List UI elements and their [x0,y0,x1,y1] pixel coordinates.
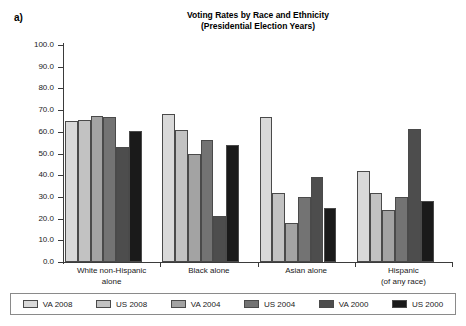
chart-legend: VA 2008US 2008VA 2004US 2004VA 2000US 20… [10,293,456,315]
legend-label: VA 2004 [191,300,221,309]
x-axis-label-line: White non-Hispanic [63,266,160,277]
y-axis-tick [58,219,63,220]
legend-item[interactable]: US 2000 [392,300,443,309]
legend-item[interactable]: US 2004 [244,300,295,309]
legend-label: VA 2008 [43,300,73,309]
bar [91,116,104,262]
legend-swatch [244,300,259,308]
y-axis-tick [58,262,63,263]
chart-title-line-1: Voting Rates by Race and Ethnicity [63,10,453,21]
bar [285,223,298,262]
legend-swatch [23,300,38,308]
y-axis-tick-label: 40.0 [10,171,54,179]
legend-swatch [96,300,111,308]
x-axis-label-line: Asian alone [258,266,355,277]
x-axis-label-line: (of any race) [355,277,452,288]
bar [324,208,337,262]
bar [201,140,214,262]
x-axis-category-label: Black alone [160,266,257,277]
x-axis-separator [452,262,453,267]
y-axis-tick-label: 90.0 [10,63,54,71]
y-axis-tick-label: 10.0 [10,236,54,244]
y-axis-tick [58,110,63,111]
y-axis-tick-label: 50.0 [10,150,54,158]
y-axis-tick-label: 70.0 [10,106,54,114]
y-axis-tick [58,67,63,68]
y-axis-tick-label: 0.0 [10,258,54,266]
legend-item[interactable]: VA 2004 [171,300,221,309]
bar [103,117,116,262]
y-axis-tick-label: 30.0 [10,193,54,201]
y-axis-tick [58,240,63,241]
y-axis-tick-label: 80.0 [10,84,54,92]
bar [421,201,434,262]
x-axis-category-label: Asian alone [258,266,355,277]
bar [65,121,78,262]
bar [129,131,142,262]
chart-title-line-2: (Presidential Election Years) [63,21,453,32]
bar [370,193,383,262]
x-axis-label-line: Hispanic [355,266,452,277]
bar [408,129,421,262]
legend-label: US 2008 [116,300,147,309]
bar [382,210,395,262]
chart-title: Voting Rates by Race and Ethnicity (Pres… [63,10,453,32]
x-axis-label-line: Black alone [160,266,257,277]
panel-label: a) [14,12,23,23]
x-axis-category-label: Hispanic(of any race) [355,266,452,287]
bar [162,114,175,262]
y-axis-tick [58,132,63,133]
legend-item[interactable]: VA 2008 [23,300,73,309]
legend-label: VA 2000 [339,300,369,309]
bar [226,145,239,262]
y-axis-tick [58,88,63,89]
legend-item[interactable]: VA 2000 [319,300,369,309]
y-axis-tick [58,197,63,198]
y-axis-tick-label: 100.0 [10,41,54,49]
legend-item[interactable]: US 2008 [96,300,147,309]
bar [188,154,201,263]
bar [298,197,311,262]
y-axis-tick-label: 20.0 [10,215,54,223]
y-axis-tick-label: 60.0 [10,128,54,136]
x-axis-label-line: alone [63,277,160,288]
chart-figure: a) Voting Rates by Race and Ethnicity (P… [0,0,466,326]
bar [260,117,273,262]
bar [213,216,226,262]
x-axis-category-label: White non-Hispanicalone [63,266,160,287]
bar [78,120,91,262]
bar [116,147,129,262]
y-axis-tick [58,154,63,155]
legend-swatch [392,300,407,308]
legend-label: US 2000 [412,300,443,309]
legend-swatch [319,300,334,308]
y-axis-tick [58,175,63,176]
bar [175,130,188,262]
legend-label: US 2004 [264,300,295,309]
bar [311,177,324,262]
bar [272,193,285,262]
y-axis-tick [58,45,63,46]
legend-swatch [171,300,186,308]
bar [395,197,408,262]
bar [357,171,370,262]
plot-area [63,45,452,262]
